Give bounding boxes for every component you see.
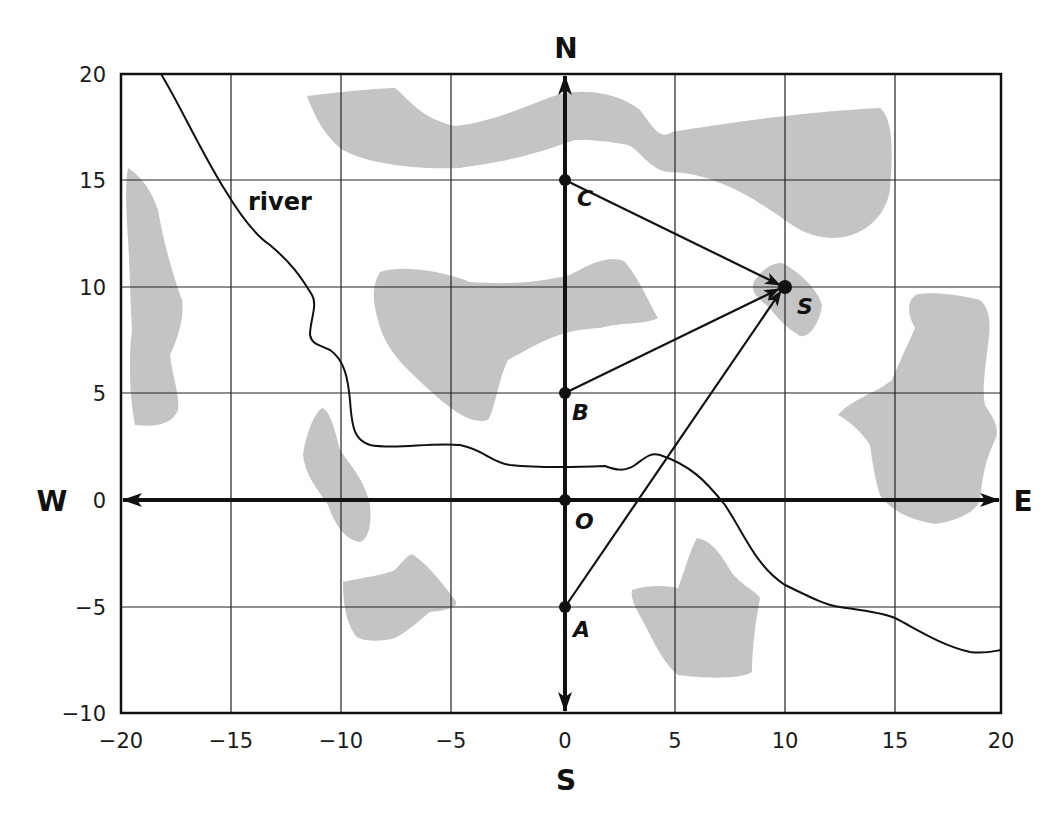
land-region-east-blob <box>838 293 997 524</box>
land-region-center-blob <box>374 259 658 421</box>
x-axis-ticks: −20 −15 −10 −5 0 5 10 15 20 <box>99 729 1015 753</box>
y-axis-ticks: 20 15 10 5 0 −5 −10 <box>62 63 106 726</box>
point-c-label: C <box>577 186 593 211</box>
river-label: river <box>248 188 312 216</box>
y-tick-label: 15 <box>79 169 106 193</box>
x-tick-label: 10 <box>772 729 799 753</box>
y-tick-label: 20 <box>79 63 106 87</box>
x-tick-label: −10 <box>319 729 363 753</box>
x-tick-label: 0 <box>558 729 571 753</box>
x-tick-label: 15 <box>882 729 909 753</box>
y-tick-label: 10 <box>79 276 106 300</box>
land-region-north-band <box>307 88 892 238</box>
land-region-south <box>632 538 760 678</box>
y-tick-label: 5 <box>93 382 106 406</box>
compass-south-label: S <box>556 764 576 797</box>
land-region-west-strip <box>126 168 182 426</box>
y-tick-label: 0 <box>93 489 106 513</box>
vector-a-to-s <box>565 291 781 607</box>
compass-east-label: E <box>1013 485 1032 518</box>
x-tick-label: −5 <box>436 729 467 753</box>
x-tick-label: 20 <box>988 729 1015 753</box>
compass-north-label: N <box>554 32 577 65</box>
point-s-label: S <box>797 294 813 319</box>
compass-west-label: W <box>37 485 68 518</box>
point-s <box>778 280 792 294</box>
point-b-label: B <box>572 400 589 425</box>
coordinate-map: river C B O A S 20 15 10 5 0 −5 −10 −20 … <box>0 0 1059 821</box>
point-o <box>559 494 571 506</box>
x-tick-label: 5 <box>668 729 681 753</box>
point-o-label: O <box>575 509 594 534</box>
y-tick-label: −5 <box>75 596 106 620</box>
x-tick-label: −20 <box>99 729 143 753</box>
x-tick-label: −15 <box>209 729 253 753</box>
land-region-west-small <box>303 408 371 542</box>
y-tick-label: −10 <box>62 702 106 726</box>
point-a <box>559 601 571 613</box>
point-a-label: A <box>571 617 590 642</box>
point-c <box>559 174 571 186</box>
land-region-southwest <box>343 554 456 641</box>
point-b <box>559 387 571 399</box>
